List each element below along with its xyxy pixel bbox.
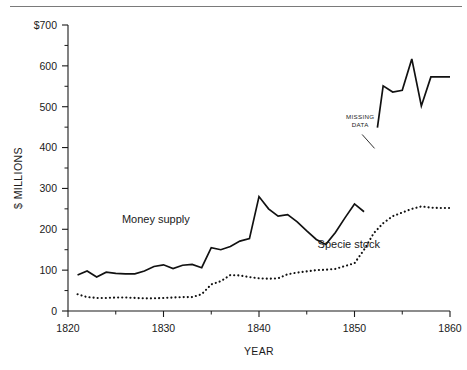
line-chart-figure: 0100200300400500600$70018201830184018501…	[0, 0, 467, 370]
chart-page: 0100200300400500600$70018201830184018501…	[0, 0, 467, 370]
x-tick-label: 1840	[247, 322, 271, 334]
annotation-leader-line	[362, 134, 374, 148]
annotation-text-line: MISSING	[346, 113, 374, 120]
x-axis-title: YEAR	[244, 345, 274, 357]
y-axis-title: $ MILLIONS	[12, 147, 24, 209]
y-tick-label: 200	[39, 223, 57, 235]
y-tick-label: 400	[39, 141, 57, 153]
series-label-1: Specie stock	[318, 238, 381, 250]
y-tick-label: 600	[39, 60, 57, 72]
y-tick-label: 500	[39, 101, 57, 113]
series-line-0-seg1	[377, 59, 450, 128]
annotation-text-line: DATA	[352, 121, 369, 128]
x-tick-label: 1860	[438, 322, 462, 334]
y-tick-label: $700	[34, 19, 58, 31]
x-tick-label: 1830	[152, 322, 176, 334]
x-tick-label: 1850	[343, 322, 367, 334]
y-tick-label: 0	[51, 305, 57, 317]
y-tick-label: 100	[39, 264, 57, 276]
x-tick-label: 1820	[56, 322, 80, 334]
y-tick-label: 300	[39, 182, 57, 194]
series-label-0: Money supply	[122, 213, 190, 225]
